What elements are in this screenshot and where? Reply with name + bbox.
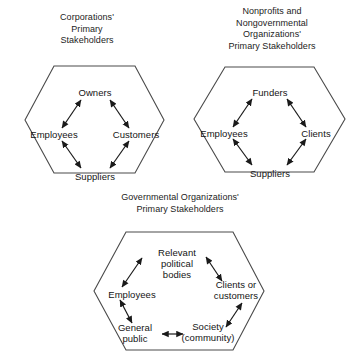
node-nonprofits-bottom: Suppliers xyxy=(250,168,290,179)
panel-title-corporations: Corporations' Primary Stakeholders xyxy=(12,12,162,47)
panel-nonprofits: Nonprofits and Nongovernmental Organizat… xyxy=(178,0,356,182)
arrow-employees-political-bodies xyxy=(122,258,142,287)
arrow-employees-funders xyxy=(233,99,252,127)
panel-title-nonprofits: Nonprofits and Nongovernmental Organizat… xyxy=(190,6,354,52)
hexagon-outline-corporations xyxy=(22,62,167,178)
hexagon-outline-nonprofits xyxy=(190,63,349,176)
arrow-employees-owners xyxy=(62,100,81,128)
panel-governmental: Governmental Organizations' Primary Stak… xyxy=(0,182,356,360)
panel-corporations: Corporations' Primary Stakeholders xyxy=(0,0,178,182)
node-corporations-right: Customers xyxy=(113,129,159,140)
node-governmental-left: Employees xyxy=(108,289,155,300)
node-governmental-lower-left: General public xyxy=(118,322,152,344)
arrow-general-public-employees xyxy=(120,300,132,323)
arrow-customers-suppliers xyxy=(110,141,129,168)
node-governmental-upper-right: Clients or customers xyxy=(214,279,258,301)
hexagon-shape xyxy=(25,66,164,173)
node-governmental-top: Relevant political bodies xyxy=(158,247,196,280)
stakeholder-diagram: Corporations' Primary Stakeholders xyxy=(0,0,356,360)
node-corporations-left: Employees xyxy=(30,129,77,140)
node-nonprofits-right: Clients xyxy=(301,128,330,139)
node-corporations-top: Owners xyxy=(78,87,111,98)
hexagon-nonprofits: Funders Clients Suppliers Employees xyxy=(190,63,349,176)
node-corporations-bottom: Suppliers xyxy=(75,171,115,182)
arrow-political-bodies-clients xyxy=(206,257,222,281)
node-nonprofits-left: Employees xyxy=(200,128,247,139)
arrow-suppliers-employees xyxy=(233,139,252,165)
hexagon-corporations: Owners Customers Suppliers Employees xyxy=(22,62,167,178)
arrow-suppliers-employees xyxy=(62,141,81,168)
arrow-clients-suppliers xyxy=(287,139,306,165)
node-governmental-lower-right: Society (community) xyxy=(182,321,235,343)
arrow-funders-clients xyxy=(287,99,306,127)
panel-title-governmental: Governmental Organizations' Primary Stak… xyxy=(88,192,272,215)
arrow-owners-customers xyxy=(110,100,129,128)
hexagon-shape xyxy=(194,67,345,172)
hexagon-governmental: Relevant political bodies Clients or cus… xyxy=(90,228,268,358)
node-nonprofits-top: Funders xyxy=(252,87,287,98)
